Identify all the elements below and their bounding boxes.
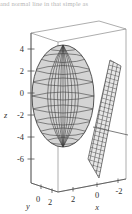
plot-3d-ellipsoid-tangent-plane: 4 2 0 -2 -4 -6 z 0 2 y	[0, 8, 132, 214]
ellipsoid-surface	[32, 36, 94, 148]
z-tick-4: -4	[17, 133, 25, 142]
z-axis-label: z	[3, 111, 8, 120]
x-tick-1: 0	[95, 191, 99, 200]
z-tick-labels: 4 2 0 -2 -4 -6	[17, 45, 25, 164]
page-text-fragment: and normal line in that simple as	[0, 0, 132, 8]
z-tick-0: 4	[20, 45, 25, 54]
z-tick-1: 2	[20, 67, 24, 76]
y-tick-labels: 0 2	[36, 195, 52, 207]
x-tick-2: -2	[116, 187, 123, 196]
z-tick-3: -2	[17, 111, 24, 120]
x-axis-label: x	[94, 203, 99, 212]
y-axis	[31, 183, 58, 193]
y-axis-label: y	[25, 202, 30, 211]
x-tick-0: 2	[71, 195, 75, 204]
y-tick-0: 0	[36, 195, 40, 204]
z-tick-5: -6	[17, 155, 24, 164]
z-tick-2: 0	[20, 89, 24, 98]
y-tick-1: 2	[48, 198, 52, 207]
figure-root: and normal line in that simple as	[0, 0, 132, 214]
plot-canvas: 4 2 0 -2 -4 -6 z 0 2 y	[0, 8, 132, 214]
x-tick-labels: 2 0 -2	[71, 187, 123, 204]
